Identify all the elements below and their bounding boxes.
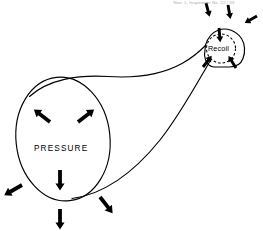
upper-neck-outline	[30, 46, 206, 97]
recoil-label: Recoil	[208, 44, 229, 53]
pressure-arrow-upper-left	[31, 106, 53, 126]
bottom-divider	[0, 230, 263, 231]
pressure-arrow-upper-right	[75, 106, 97, 126]
diagram-canvas: PRESSURE Recoil	[0, 0, 263, 231]
pressure-arrow-bottom-external	[55, 209, 64, 230]
pressure-arrow-group	[2, 106, 116, 230]
pressure-label: PRESSURE	[34, 144, 88, 153]
figure-root: Nov. 1, Inspiration No. 22 | 33 PRESSU	[0, 0, 263, 231]
pressure-arrow-lower-right-external	[96, 194, 116, 216]
recoil-arrow-top-center-in	[225, 4, 234, 19]
figure-caption: Nov. 1, Inspiration No. 22 | 33	[148, 0, 260, 6]
pressure-arrow-down-center	[55, 170, 64, 191]
recoil-arrow-group	[200, 2, 259, 70]
recoil-arrow-top-right-in	[243, 13, 259, 26]
recoil-arrow-inner-top-in	[216, 28, 224, 43]
pressure-arrow-lower-left-external	[2, 181, 24, 199]
lower-neck-outline	[72, 60, 211, 199]
